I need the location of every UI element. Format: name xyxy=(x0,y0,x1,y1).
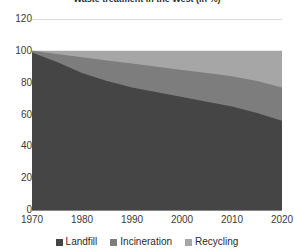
y-axis-tick-20: 20 xyxy=(4,173,32,183)
x-axis-tick-2020: 2020 xyxy=(262,214,294,226)
x-axis-tick-1980: 1980 xyxy=(62,214,102,226)
y-axis-tick-100: 100 xyxy=(4,46,32,56)
legend-swatch-icon-incineration xyxy=(110,239,117,246)
chart-title: Waste treatment in the West (in %) xyxy=(0,0,294,5)
legend-label: Recycling xyxy=(195,237,238,247)
chart-container: Waste treatment in the West (in %) 12010… xyxy=(0,0,294,252)
y-axis-tick-120: 120 xyxy=(4,14,32,24)
plot-area xyxy=(32,19,282,210)
y-axis-tick-80: 80 xyxy=(4,78,32,88)
legend-label: Incineration xyxy=(120,237,172,247)
x-axis-tick-2000: 2000 xyxy=(162,214,202,226)
legend-swatch-icon-recycling xyxy=(185,239,192,246)
x-axis-tick-1970: 1970 xyxy=(12,214,52,226)
chart-legend: LandfillIncinerationRecycling xyxy=(0,237,294,247)
x-axis-tick-1990: 1990 xyxy=(112,214,152,226)
legend-item-landfill[interactable]: Landfill xyxy=(56,237,98,247)
x-axis-line xyxy=(32,210,282,211)
x-axis-tick-2010: 2010 xyxy=(212,214,252,226)
stacked-area-series-group xyxy=(32,19,282,210)
legend-item-incineration[interactable]: Incineration xyxy=(110,237,172,247)
legend-item-recycling[interactable]: Recycling xyxy=(185,237,238,247)
y-axis-tick-60: 60 xyxy=(4,110,32,120)
legend-swatch-icon-landfill xyxy=(56,239,63,246)
legend-label: Landfill xyxy=(66,237,98,247)
y-axis-tick-40: 40 xyxy=(4,141,32,151)
